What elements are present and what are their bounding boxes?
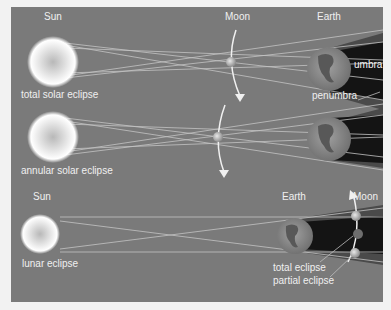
partial-eclipse-pointer	[330, 256, 352, 277]
moon-icon	[226, 57, 236, 67]
moon-icon	[213, 132, 223, 142]
partial-eclipse-label: partial eclipse	[273, 276, 334, 286]
earth-label: Earth	[317, 12, 341, 22]
moon-total-icon	[353, 229, 363, 239]
total-solar-eclipse-caption: total solar eclipse	[21, 90, 98, 100]
penumbra-label: penumbra	[312, 91, 357, 101]
sun-label: Sun	[44, 12, 62, 22]
umbra-label: umbra	[354, 60, 382, 70]
arrow-head-icon	[219, 170, 229, 178]
total-eclipse-label: total eclipse	[273, 263, 326, 273]
sun-icon	[20, 214, 60, 254]
sun-icon	[27, 36, 79, 88]
moon-label: Moon	[353, 192, 378, 202]
earth-label: Earth	[282, 192, 306, 202]
sun-label: Sun	[33, 192, 51, 202]
moon-partial-top-icon	[351, 211, 361, 221]
moon-label: Moon	[225, 12, 250, 22]
annular-solar-eclipse-caption: annular solar eclipse	[21, 166, 113, 176]
lunar-eclipse-caption: lunar eclipse	[22, 259, 78, 269]
sun-icon	[27, 111, 79, 163]
arrow-head-icon	[235, 94, 245, 102]
